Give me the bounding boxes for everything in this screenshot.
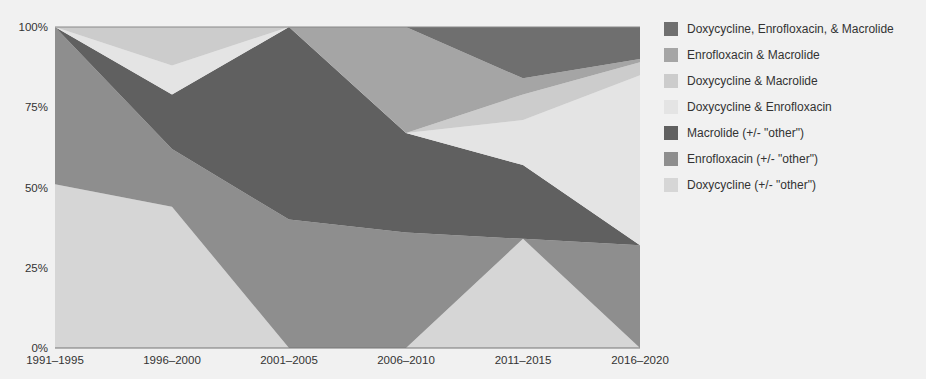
legend-item: Doxycycline (+/- "other"): [664, 172, 894, 198]
legend-swatch-icon: [664, 48, 678, 62]
chart-legend: Doxycycline, Enrofloxacin, & Macrolide E…: [664, 16, 894, 198]
x-tick-label: 1991–1995: [26, 354, 84, 366]
legend-item: Macrolide (+/- "other"): [664, 120, 894, 146]
legend-swatch-icon: [664, 152, 678, 166]
legend-item: Enrofloxacin & Macrolide: [664, 42, 894, 68]
x-tick-label: 2006–2010: [377, 354, 435, 366]
legend-label: Enrofloxacin & Macrolide: [687, 48, 820, 62]
x-tick-label: 2016–2020: [611, 354, 669, 366]
y-tick-label: 0%: [31, 342, 48, 354]
y-axis-ticks: 0%25%50%75%100%: [19, 21, 48, 354]
legend-label: Doxycycline, Enrofloxacin, & Macrolide: [687, 22, 894, 36]
legend-swatch-icon: [664, 22, 678, 36]
legend-item: Doxycycline, Enrofloxacin, & Macrolide: [664, 16, 894, 42]
legend-item: Doxycycline & Enrofloxacin: [664, 94, 894, 120]
legend-label: Macrolide (+/- "other"): [687, 126, 804, 140]
plot-areas: [55, 27, 640, 348]
x-tick-label: 1996–2000: [143, 354, 201, 366]
legend-label: Doxycycline (+/- "other"): [687, 178, 816, 192]
y-tick-label: 100%: [19, 21, 48, 33]
legend-swatch-icon: [664, 100, 678, 114]
x-tick-label: 2011–2015: [495, 354, 552, 366]
x-axis-ticks: 1991–19951996–20002001–20052006–20102011…: [26, 354, 669, 366]
y-tick-label: 25%: [25, 262, 48, 274]
y-tick-label: 50%: [25, 182, 48, 194]
x-tick-label: 2001–2005: [260, 354, 318, 366]
legend-label: Doxycycline & Macrolide: [687, 74, 818, 88]
legend-label: Doxycycline & Enrofloxacin: [687, 100, 832, 114]
y-tick-label: 75%: [25, 101, 48, 113]
legend-item: Doxycycline & Macrolide: [664, 68, 894, 94]
legend-label: Enrofloxacin (+/- "other"): [687, 152, 818, 166]
legend-item: Enrofloxacin (+/- "other"): [664, 146, 894, 172]
legend-swatch-icon: [664, 178, 678, 192]
legend-swatch-icon: [664, 126, 678, 140]
legend-swatch-icon: [664, 74, 678, 88]
